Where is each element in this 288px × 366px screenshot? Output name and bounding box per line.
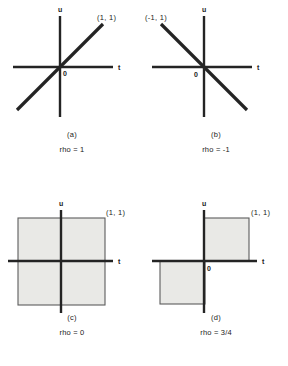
figure-container: u t 0 (1, 1) (a) rho = 1 u t 0 (-1, 1) (…: [0, 0, 288, 366]
axis-u-label: u: [202, 200, 206, 207]
panel-letter-b: (b): [144, 131, 288, 139]
panel-letter-a: (a): [0, 131, 144, 139]
panel-d: u t 0 (1, 1) (d) rho = 3/4: [144, 183, 288, 366]
point-label: (-1, 1): [145, 13, 167, 22]
origin-label: 0: [63, 70, 67, 77]
point-label: (1, 1): [106, 208, 126, 217]
origin-label: 0: [207, 265, 211, 272]
panel-c: u t (1, 1) (c) rho = 0: [0, 183, 144, 366]
plot-c: u t (1, 1): [0, 183, 144, 366]
axis-u-label: u: [58, 6, 62, 13]
axis-u-label: u: [59, 200, 63, 207]
axis-u-label: u: [202, 6, 206, 13]
panel-rho-b: rho = -1: [144, 146, 288, 154]
panel-b: u t 0 (-1, 1) (b) rho = -1: [144, 0, 288, 183]
panel-rho-d: rho = 3/4: [144, 329, 288, 337]
axis-t-label: t: [118, 64, 121, 71]
plot-b: u t 0 (-1, 1): [144, 0, 288, 183]
plot-d: u t 0 (1, 1): [144, 183, 288, 366]
point-label: (1, 1): [251, 208, 271, 217]
axis-t-label: t: [262, 258, 265, 265]
axis-t-label: t: [257, 64, 260, 71]
origin-label: 0: [194, 71, 198, 78]
axis-t-label: t: [118, 258, 121, 265]
point-label: (1, 1): [97, 13, 117, 22]
panel-letter-d: (d): [144, 314, 288, 322]
panel-a: u t 0 (1, 1) (a) rho = 1: [0, 0, 144, 183]
panel-rho-c: rho = 0: [0, 329, 144, 337]
support-square-lower-left: [160, 261, 205, 304]
panel-rho-a: rho = 1: [0, 146, 144, 154]
support-square-upper-right: [204, 218, 249, 261]
plot-a: u t 0 (1, 1): [0, 0, 144, 183]
panel-letter-c: (c): [0, 314, 144, 322]
